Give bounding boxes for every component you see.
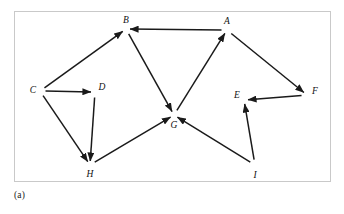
graph-node-label-i: I	[252, 170, 257, 180]
graph-edge-c-d	[46, 91, 92, 92]
graph-edge-i-g	[177, 117, 250, 162]
graph-edge-c-h	[43, 96, 88, 162]
directed-graph-canvas: ABCDEFGHI	[15, 12, 332, 183]
graph-node-label-c: C	[30, 85, 37, 95]
figure-caption: (a)	[14, 190, 25, 200]
figure-frame: ABCDEFGHI	[14, 11, 331, 182]
graph-node-label-b: B	[123, 15, 129, 25]
graph-edge-a-b	[130, 29, 222, 30]
graph-node-label-e: E	[233, 90, 240, 100]
graph-edge-a-f	[231, 33, 304, 92]
figure-container: ABCDEFGHI (a)	[0, 0, 344, 214]
graph-edge-c-b	[44, 31, 122, 87]
graph-node-label-g: G	[171, 120, 178, 130]
graph-node-label-a: A	[223, 16, 230, 26]
graph-edge-f-e	[248, 95, 302, 99]
graph-edge-g-a	[177, 33, 225, 110]
graph-edge-i-e	[245, 104, 254, 160]
graph-edge-b-g	[129, 34, 172, 112]
graph-node-label-h: H	[86, 169, 95, 179]
graph-edge-d-h	[90, 97, 94, 161]
graph-node-label-f: F	[311, 86, 318, 96]
graph-node-label-d: D	[98, 82, 106, 92]
edge-layer	[43, 29, 304, 162]
graph-edge-h-g	[95, 117, 171, 162]
